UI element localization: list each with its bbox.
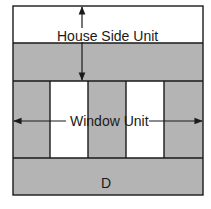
- unit-diagram: House Side Unit Window Unit D: [0, 0, 211, 209]
- window-unit-label: Window Unit: [70, 114, 149, 128]
- house-side-gray-band: [13, 43, 203, 81]
- house-side-unit-label: House Side Unit: [57, 29, 158, 43]
- window-column-5: [164, 81, 203, 158]
- window-column-1: [13, 81, 50, 158]
- section-d-label: D: [101, 176, 111, 190]
